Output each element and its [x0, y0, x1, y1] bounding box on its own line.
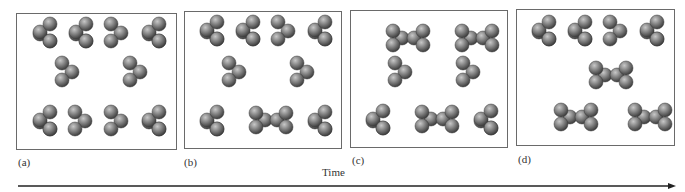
- molecule: [236, 15, 260, 46]
- time-axis-label: Time: [322, 166, 345, 178]
- panel-c: [350, 10, 508, 148]
- molecule: [33, 105, 57, 136]
- dimer-molecule: [589, 61, 633, 89]
- dimer-molecule: [628, 103, 672, 131]
- molecule: [308, 105, 332, 136]
- molecule: [200, 105, 224, 136]
- panel-label-c: (c): [352, 154, 364, 166]
- dimer-molecule: [415, 105, 459, 133]
- molecule: [33, 17, 57, 48]
- molecule: [123, 56, 147, 87]
- molecule: [388, 56, 412, 87]
- molecule: [55, 56, 79, 87]
- molecule: [200, 15, 224, 46]
- molecule: [603, 15, 627, 46]
- molecule: [474, 104, 498, 135]
- molecule: [290, 56, 314, 87]
- molecule: [640, 15, 664, 46]
- dimer-molecule: [554, 103, 598, 131]
- dimer-molecule: [455, 24, 499, 52]
- molecule: [456, 56, 480, 87]
- molecule: [69, 17, 93, 48]
- panel-label-d: (d): [518, 153, 531, 165]
- panel-label-b: (b): [184, 156, 197, 168]
- molecule: [68, 105, 92, 136]
- molecule: [271, 15, 295, 46]
- panel-a: [16, 13, 177, 150]
- molecule: [222, 56, 246, 87]
- molecule: [142, 17, 166, 48]
- panel-b: [184, 11, 342, 149]
- time-arrow: [18, 182, 676, 190]
- molecule: [308, 15, 332, 46]
- molecule: [104, 17, 128, 48]
- panel-d: [516, 9, 675, 146]
- molecule: [532, 15, 556, 46]
- dimer-molecule: [386, 24, 430, 52]
- molecule: [142, 105, 166, 136]
- molecule: [366, 104, 390, 135]
- panel-label-a: (a): [18, 156, 30, 168]
- molecule: [568, 15, 592, 46]
- dimer-molecule: [249, 106, 293, 134]
- molecule: [104, 105, 128, 136]
